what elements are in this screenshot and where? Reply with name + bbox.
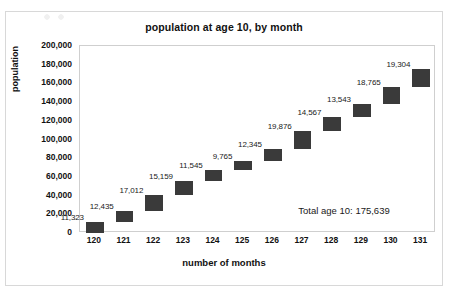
bar-123[interactable] [175,181,193,195]
bar-value-label: 15,159 [141,172,173,181]
x-axis-tick-label: 127 [294,235,308,245]
y-axis-tick-labels: 200,000180,000160,000140,000120,000100,0… [13,45,75,232]
x-axis-tick-label: 126 [265,235,279,245]
bar-value-label: 11,323 [52,213,84,222]
y-axis-tick-label: 180,000 [41,59,72,69]
bar-131[interactable] [412,69,430,87]
x-axis-tick-label: 121 [116,235,130,245]
y-axis-tick-label: 100,000 [41,134,72,144]
x-axis-tick-label: 120 [87,235,101,245]
total-annotation: Total age 10: 175,639 [298,204,389,215]
x-axis-title: number of months [6,257,442,268]
y-axis-tick-label: 40,000 [46,190,72,200]
y-axis-tick-label: 140,000 [41,96,72,106]
x-axis-tick-label: 124 [205,235,219,245]
bar-value-label: 11,545 [171,161,203,170]
bars-layer: 11,32312,43517,01215,15911,5459,76512,34… [80,46,434,231]
bar-129[interactable] [353,104,371,117]
bar-value-label: 17,012 [111,186,143,195]
bar-value-label: 9,765 [200,152,232,161]
bar-value-label: 12,345 [230,140,262,149]
x-axis-tick-labels: 120121122123124125126127128129130131 [79,235,435,249]
bar-value-label: 12,435 [82,202,114,211]
chart-title: population at age 10, by month [6,21,442,33]
y-axis-tick-label: 160,000 [41,77,72,87]
bar-122[interactable] [145,195,163,211]
bar-128[interactable] [323,117,341,131]
bar-130[interactable] [383,87,401,105]
bar-126[interactable] [264,149,282,161]
scan-artifact [42,13,68,20]
y-axis-tick-label: 80,000 [46,152,72,162]
bar-121[interactable] [116,211,134,223]
x-axis-tick-label: 129 [354,235,368,245]
bar-127[interactable] [294,131,312,150]
bar-value-label: 18,765 [349,78,381,87]
bar-value-label: 13,543 [319,95,351,104]
chart-frame: population at age 10, by month populatio… [5,11,443,286]
x-axis-tick-label: 125 [235,235,249,245]
x-axis-tick-label: 123 [176,235,190,245]
bar-124[interactable] [205,170,223,181]
plot-area: 11,32312,43517,01215,15911,5459,76512,34… [79,45,435,232]
x-axis-tick-label: 131 [413,235,427,245]
bar-value-label: 14,567 [289,108,321,117]
bar-125[interactable] [234,161,252,170]
x-axis-tick-label: 130 [383,235,397,245]
bar-120[interactable] [86,222,104,233]
bar-value-label: 19,304 [378,60,410,69]
bar-value-label: 19,876 [260,122,292,131]
y-axis-tick-label: 120,000 [41,115,72,125]
y-axis-tick-label: 60,000 [46,171,72,181]
x-axis-tick-label: 128 [324,235,338,245]
y-axis-tick-label: 200,000 [41,40,72,50]
y-axis-tick-label: 0 [67,227,72,237]
x-axis-tick-label: 122 [146,235,160,245]
